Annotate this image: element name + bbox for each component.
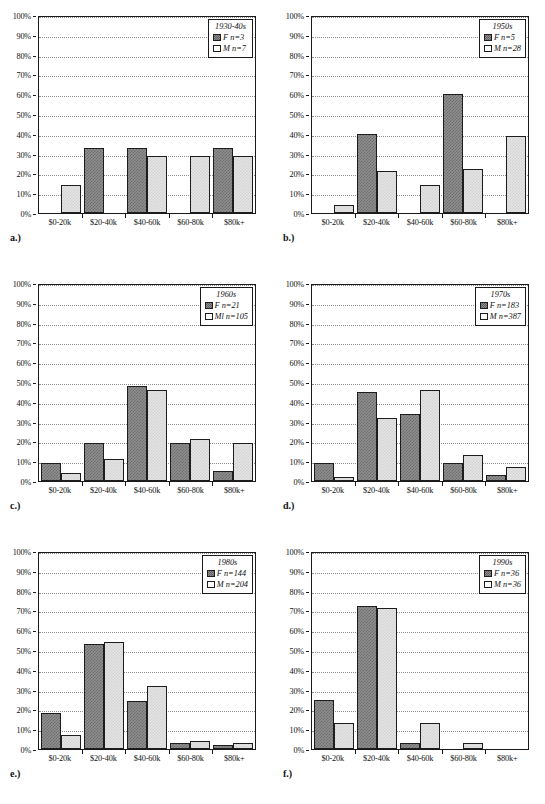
bar-m xyxy=(104,642,124,749)
bar-f xyxy=(213,745,233,749)
legend-label: M n=28 xyxy=(494,43,521,54)
y-tick-label: 50% xyxy=(290,111,304,120)
chart-panel-f: 0%10%20%30%40%50%60%70%80%90%100%1990sF … xyxy=(273,536,545,804)
y-tick-mark xyxy=(306,651,309,652)
y-tick-mark xyxy=(306,214,309,215)
legend-label: F n=183 xyxy=(490,300,519,311)
y-axis-labels: 0%10%20%30%40%50%60%70%80%90%100% xyxy=(0,284,36,482)
legend-title: 1960s xyxy=(205,290,248,300)
y-tick-label: 70% xyxy=(290,607,304,616)
y-tick-mark xyxy=(33,651,36,652)
y-tick-mark xyxy=(306,16,309,17)
x-axis-labels: $0-20k$20-40k$40-60k$60-80k$80k+ xyxy=(311,751,529,767)
x-tick-label: $60-80k xyxy=(169,215,213,231)
y-axis-labels: 0%10%20%30%40%50%60%70%80%90%100% xyxy=(273,284,309,482)
legend: 1960sF n=21Ml n=105 xyxy=(200,287,253,326)
x-tick-label: $60-80k xyxy=(169,483,213,499)
y-tick-label: 20% xyxy=(290,438,304,447)
bar-f xyxy=(213,471,233,481)
legend-label: F n=21 xyxy=(215,300,240,311)
y-tick-mark xyxy=(306,482,309,483)
legend-item: F n=3 xyxy=(213,32,248,43)
bar-m xyxy=(463,743,483,749)
plot-frame: 1960sF n=21Ml n=105 xyxy=(38,284,256,482)
x-tick-label: $80k+ xyxy=(485,483,529,499)
y-tick-label: 0% xyxy=(293,210,304,219)
legend-swatch-m-icon xyxy=(484,45,492,52)
y-tick-label: 30% xyxy=(17,686,31,695)
y-tick-label: 100% xyxy=(13,548,31,557)
legend-title: 1930-40s xyxy=(213,22,248,32)
legend-title: 1950s xyxy=(484,22,521,32)
y-tick-label: 20% xyxy=(290,706,304,715)
y-tick-mark xyxy=(33,572,36,573)
bar-group xyxy=(398,553,441,749)
y-tick-label: 0% xyxy=(20,478,31,487)
legend-swatch-f-icon xyxy=(213,34,221,41)
x-tick-label: $0-20k xyxy=(38,751,82,767)
y-tick-label: 70% xyxy=(17,607,31,616)
plot-area: 1930-40sF n=3M n=7 xyxy=(38,16,256,214)
y-axis-labels: 0%10%20%30%40%50%60%70%80%90%100% xyxy=(273,552,309,750)
y-tick-mark xyxy=(33,155,36,156)
chart-panel-d: 0%10%20%30%40%50%60%70%80%90%100%1970sF … xyxy=(273,268,545,536)
legend-label: F n=36 xyxy=(494,568,519,579)
legend-swatch-m-icon xyxy=(205,313,213,320)
bar-f xyxy=(127,386,147,481)
bar-group xyxy=(169,17,212,213)
legend-item: M n=7 xyxy=(213,43,248,54)
y-tick-label: 10% xyxy=(17,190,31,199)
y-tick-mark xyxy=(33,115,36,116)
panel-label: b.) xyxy=(283,232,294,243)
y-tick-label: 50% xyxy=(17,379,31,388)
y-axis-labels: 0%10%20%30%40%50%60%70%80%90%100% xyxy=(0,552,36,750)
bar-m xyxy=(147,686,167,749)
y-tick-label: 0% xyxy=(293,478,304,487)
y-tick-label: 100% xyxy=(13,12,31,21)
y-tick-mark xyxy=(33,174,36,175)
legend: 1990sF n=36M n=36 xyxy=(479,555,526,594)
bar-m xyxy=(190,741,210,749)
bar-m xyxy=(420,390,440,481)
y-tick-label: 70% xyxy=(290,339,304,348)
y-tick-label: 60% xyxy=(17,627,31,636)
bar-f xyxy=(314,463,334,481)
y-tick-mark xyxy=(306,194,309,195)
bar-m xyxy=(334,477,354,481)
y-tick-mark xyxy=(33,462,36,463)
legend-swatch-m-icon xyxy=(484,581,492,588)
bar-m xyxy=(420,185,440,213)
y-tick-mark xyxy=(33,214,36,215)
y-tick-label: 80% xyxy=(17,587,31,596)
bar-m xyxy=(377,608,397,749)
y-tick-mark xyxy=(33,36,36,37)
bar-f xyxy=(41,463,61,481)
y-tick-mark xyxy=(33,671,36,672)
x-tick-label: $20-40k xyxy=(355,483,399,499)
bar-m xyxy=(190,156,210,213)
legend-item: M n=36 xyxy=(484,579,521,590)
y-tick-label: 60% xyxy=(290,627,304,636)
plot-area: 1950sF n=5M n=28 xyxy=(311,16,529,214)
legend-swatch-f-icon xyxy=(207,570,215,577)
chart-panel-e: 0%10%20%30%40%50%60%70%80%90%100%1980sF … xyxy=(0,536,272,804)
bar-f xyxy=(84,443,104,481)
plot-area: 1980sF n=144M n=204 xyxy=(38,552,256,750)
y-tick-label: 80% xyxy=(290,587,304,596)
y-tick-label: 10% xyxy=(290,726,304,735)
chart-panel-c: 0%10%20%30%40%50%60%70%80%90%100%1960sF … xyxy=(0,268,272,536)
y-tick-label: 50% xyxy=(290,379,304,388)
bar-m xyxy=(233,743,253,749)
bar-m xyxy=(506,136,526,213)
bar-group xyxy=(82,285,125,481)
y-tick-mark xyxy=(306,284,309,285)
x-tick-label: $20-40k xyxy=(82,751,126,767)
x-axis-labels: $0-20k$20-40k$40-60k$60-80k$80k+ xyxy=(38,483,256,499)
bar-f xyxy=(443,463,463,481)
y-tick-label: 90% xyxy=(17,299,31,308)
bar-m xyxy=(147,156,167,213)
y-tick-label: 40% xyxy=(290,398,304,407)
x-axis-labels: $0-20k$20-40k$40-60k$60-80k$80k+ xyxy=(311,483,529,499)
legend-item: F n=144 xyxy=(207,568,248,579)
y-tick-label: 20% xyxy=(17,706,31,715)
